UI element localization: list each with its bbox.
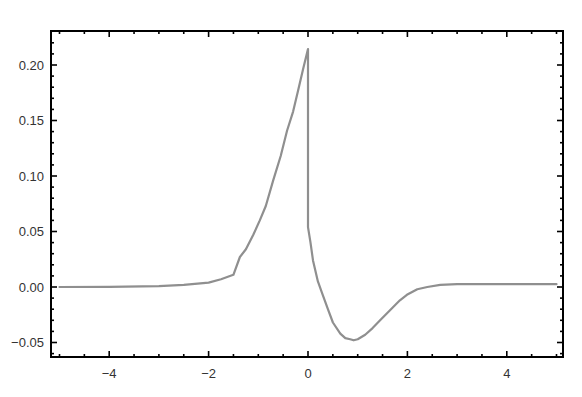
line-chart: −4−2024−0.050.000.050.100.150.20 <box>0 0 582 397</box>
x-tick-label: −2 <box>201 366 216 381</box>
y-tick-label: 0.00 <box>19 280 44 295</box>
x-tick-label: 2 <box>404 366 411 381</box>
x-tick-label: 0 <box>304 366 311 381</box>
x-tick-label: −4 <box>102 366 117 381</box>
y-tick-label: 0.10 <box>19 169 44 184</box>
y-tick-label: 0.20 <box>19 58 44 73</box>
x-tick-label: 4 <box>503 366 510 381</box>
y-tick-label: 0.05 <box>19 224 44 239</box>
y-tick-label: 0.15 <box>19 113 44 128</box>
y-tick-label: −0.05 <box>11 335 44 350</box>
data-line <box>60 49 557 340</box>
